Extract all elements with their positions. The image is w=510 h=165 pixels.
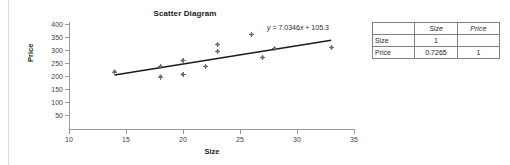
trendline bbox=[69, 24, 354, 128]
scatter-point-marker[interactable] bbox=[249, 32, 254, 37]
scatter-point-marker[interactable] bbox=[158, 75, 163, 80]
table-cell-value: 0.7265 bbox=[415, 47, 457, 59]
x-axis-tick-label: 10 bbox=[54, 136, 84, 144]
table-cell-value: 1 bbox=[457, 47, 499, 59]
table-header-price: Price bbox=[457, 23, 499, 35]
y-axis-title: Price bbox=[26, 44, 35, 62]
table-header-row: Size Price bbox=[373, 23, 500, 35]
scatter-point-marker[interactable] bbox=[272, 46, 277, 51]
x-axis-tick bbox=[126, 130, 127, 134]
correlation-table-wrapper[interactable]: Size Price Size1Price0.72651 bbox=[372, 22, 500, 59]
x-axis-tick-label: 20 bbox=[168, 136, 198, 144]
table-body: Size1Price0.72651 bbox=[373, 35, 500, 59]
x-axis-tick-label: 25 bbox=[225, 136, 255, 144]
y-axis-tick-label: 200 bbox=[37, 73, 63, 80]
x-axis-tick bbox=[183, 130, 184, 134]
scatter-point-marker[interactable] bbox=[260, 55, 265, 60]
equation-intercept-text: + 105.3 bbox=[303, 24, 329, 31]
table-row: Price0.72651 bbox=[373, 47, 500, 59]
screenshot-root: Scatter Diagram 50100150200250300350400 … bbox=[0, 0, 510, 165]
x-axis-tick bbox=[69, 130, 70, 134]
table-cell-empty bbox=[457, 35, 499, 47]
y-axis-tick-label: 100 bbox=[37, 99, 63, 106]
y-axis-tick-label: 250 bbox=[37, 60, 63, 67]
x-axis-tick bbox=[297, 130, 298, 134]
y-axis-tick-label: 50 bbox=[37, 112, 63, 119]
equation-slope-text: = 7.0346 bbox=[271, 24, 300, 31]
y-axis-tick-label: 300 bbox=[37, 47, 63, 54]
x-axis-tick-label: 35 bbox=[339, 136, 369, 144]
table-row: Size1 bbox=[373, 35, 500, 47]
scatter-point-marker[interactable] bbox=[112, 70, 117, 75]
scatter-point-marker[interactable] bbox=[181, 58, 186, 63]
x-axis-tick bbox=[354, 130, 355, 134]
x-axis-line bbox=[69, 129, 355, 130]
chart-title: Scatter Diagram bbox=[9, 9, 361, 18]
x-axis-title: Size bbox=[69, 147, 355, 156]
table-row-header: Price bbox=[373, 47, 415, 59]
scatter-point-marker[interactable] bbox=[215, 42, 220, 47]
x-axis-tick-label: 15 bbox=[111, 136, 141, 144]
table-cell-value: 1 bbox=[415, 35, 457, 47]
x-axis-tick bbox=[240, 130, 241, 134]
table-corner-cell bbox=[373, 23, 415, 35]
scatter-point-marker[interactable] bbox=[215, 49, 220, 54]
x-axis-tick-label: 30 bbox=[282, 136, 312, 144]
table-row-header: Size bbox=[373, 35, 415, 47]
y-axis-tick-label: 150 bbox=[37, 86, 63, 93]
correlation-table[interactable]: Size Price Size1Price0.72651 bbox=[372, 22, 500, 59]
scatter-point-marker[interactable] bbox=[158, 64, 163, 69]
scatter-point-marker[interactable] bbox=[181, 72, 186, 77]
table-header-size: Size bbox=[415, 23, 457, 35]
scatter-point-marker[interactable] bbox=[329, 45, 334, 50]
y-axis-tick-label: 350 bbox=[37, 34, 63, 41]
scatter-point-marker[interactable] bbox=[203, 64, 208, 69]
trendline-equation-label: y = 7.0346x + 105.3 bbox=[267, 24, 329, 31]
y-axis-tick-label: 400 bbox=[37, 21, 63, 28]
plot-area bbox=[69, 24, 354, 128]
scatter-chart-panel[interactable]: Scatter Diagram 50100150200250300350400 … bbox=[8, 0, 360, 165]
